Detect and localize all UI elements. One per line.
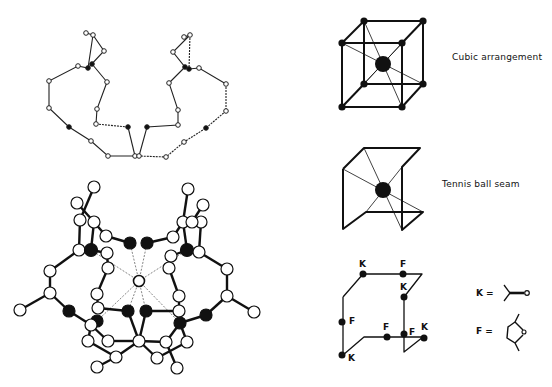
kf-label-f4: F xyxy=(409,327,415,337)
cubic-arrangement-diagram xyxy=(338,17,426,110)
kf-label-f1: F xyxy=(400,259,406,269)
legend-k-label: K = xyxy=(476,288,494,298)
kf-label-k4: K xyxy=(348,353,355,363)
kf-label-k2: K xyxy=(400,282,407,292)
kf-label-k1: K xyxy=(359,259,366,269)
kf-label-k3: K xyxy=(421,322,428,332)
kf-label-f2: F xyxy=(349,316,355,326)
skeletal-chain xyxy=(49,33,226,157)
legend-f-label: F = xyxy=(476,326,493,336)
tennis-ball-seam-label: Tennis ball seam xyxy=(442,179,520,189)
furan-ring-icon xyxy=(507,314,526,351)
ketone-icon xyxy=(504,285,529,301)
skeletal-atoms xyxy=(47,31,229,160)
cubic-arrangement-label: Cubic arrangement xyxy=(452,52,542,62)
central-metal-atom xyxy=(134,276,145,287)
ball-stick-atoms xyxy=(14,181,260,374)
kf-seam-diagram xyxy=(339,271,428,359)
tennis-ball-seam-diagram xyxy=(343,148,423,230)
kf-label-f3: F xyxy=(383,322,389,332)
